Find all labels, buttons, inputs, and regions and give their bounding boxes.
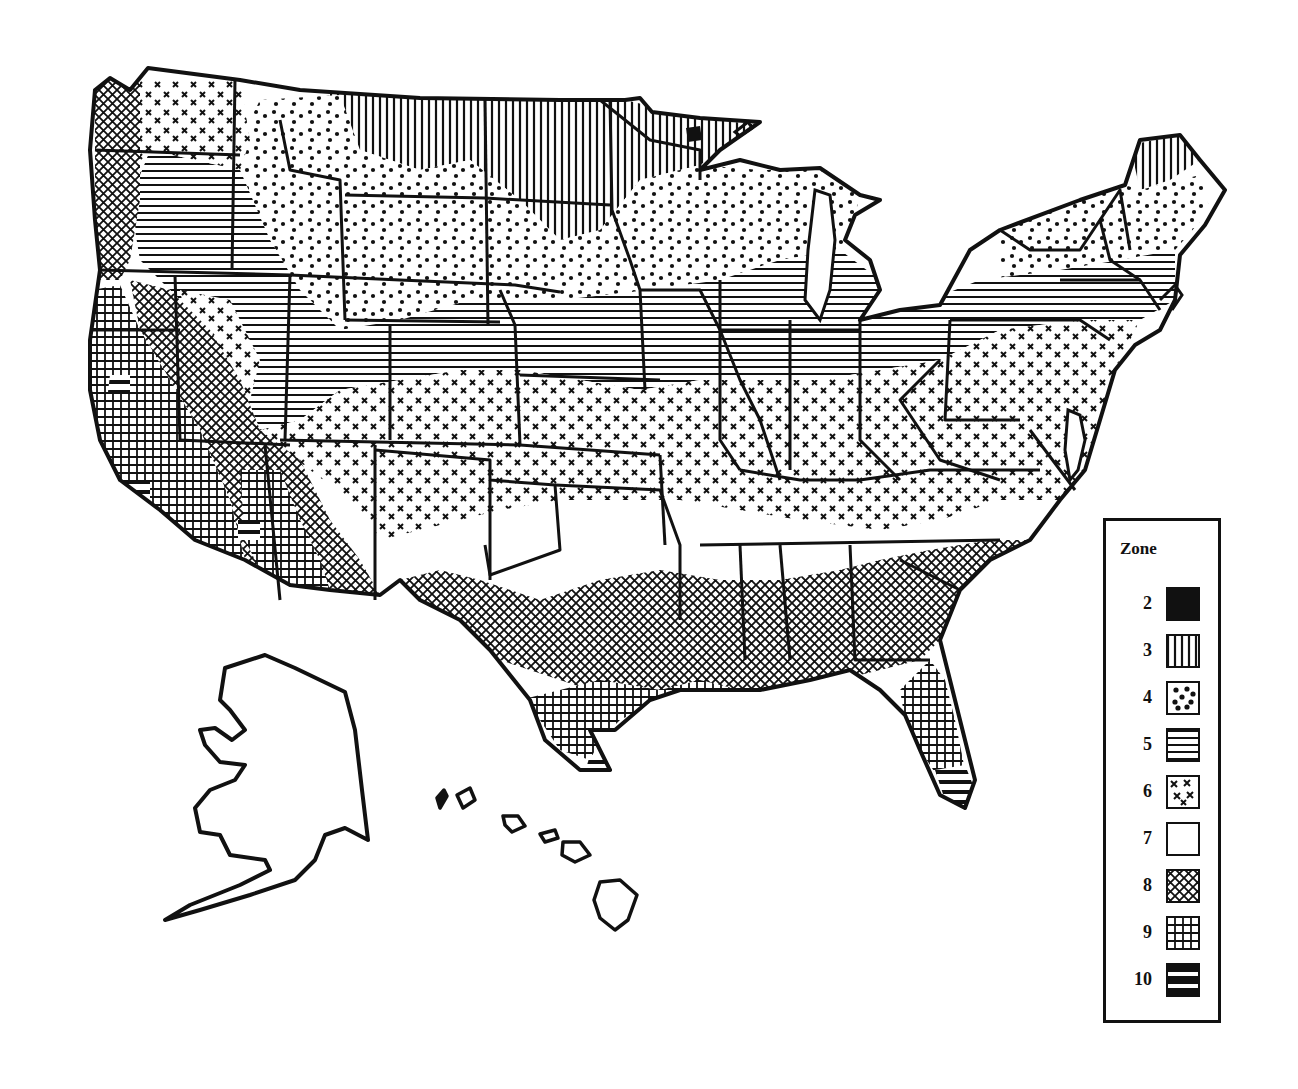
- alaska-outline: [165, 655, 368, 920]
- diagonal-crosshatch-swatch-icon: [1166, 869, 1200, 903]
- legend-zone-number: 9: [1106, 922, 1152, 943]
- zone-2-region: [686, 126, 702, 142]
- legend-item-zone-10: 10: [1106, 963, 1218, 999]
- legend-zone-number: 5: [1106, 734, 1152, 755]
- dots-swatch-icon: [1166, 681, 1200, 715]
- grid-crosshatch-swatch-icon: [1166, 916, 1200, 950]
- hawaii-outline: [437, 788, 637, 930]
- legend-item-zone-3: 3: [1106, 634, 1218, 670]
- legend-zone-number: 3: [1106, 640, 1152, 661]
- zone-10-california-coast: [108, 375, 130, 392]
- legend-zone-number: 4: [1106, 687, 1152, 708]
- legend-zone-number: 8: [1106, 875, 1152, 896]
- legend-item-zone-8: 8: [1106, 869, 1218, 905]
- thick-bars-swatch-icon: [1166, 963, 1200, 997]
- legend-item-zone-7: 7: [1106, 822, 1218, 858]
- legend-zone-number: 2: [1106, 593, 1152, 614]
- zone-10-desert: [238, 520, 260, 540]
- horizontal-lines-swatch-icon: [1166, 728, 1200, 762]
- legend-item-zone-6: 6: [1106, 775, 1218, 811]
- zone-legend: Zone 2 3 4 5 6 7 8 9: [1103, 518, 1221, 1023]
- legend-title: Zone: [1120, 539, 1157, 559]
- legend-item-zone-9: 9: [1106, 916, 1218, 952]
- legend-item-zone-5: 5: [1106, 728, 1218, 764]
- legend-zone-number: 10: [1106, 969, 1152, 990]
- legend-item-zone-2: 2: [1106, 587, 1218, 623]
- x-marks-swatch-icon: [1166, 775, 1200, 809]
- legend-item-zone-4: 4: [1106, 681, 1218, 717]
- legend-zone-number: 6: [1106, 781, 1152, 802]
- legend-zone-number: 7: [1106, 828, 1152, 849]
- solid-black-swatch-icon: [1166, 587, 1200, 621]
- blank-white-swatch-icon: [1166, 822, 1200, 856]
- zone-10-socal: [125, 480, 150, 500]
- vertical-lines-swatch-icon: [1166, 634, 1200, 668]
